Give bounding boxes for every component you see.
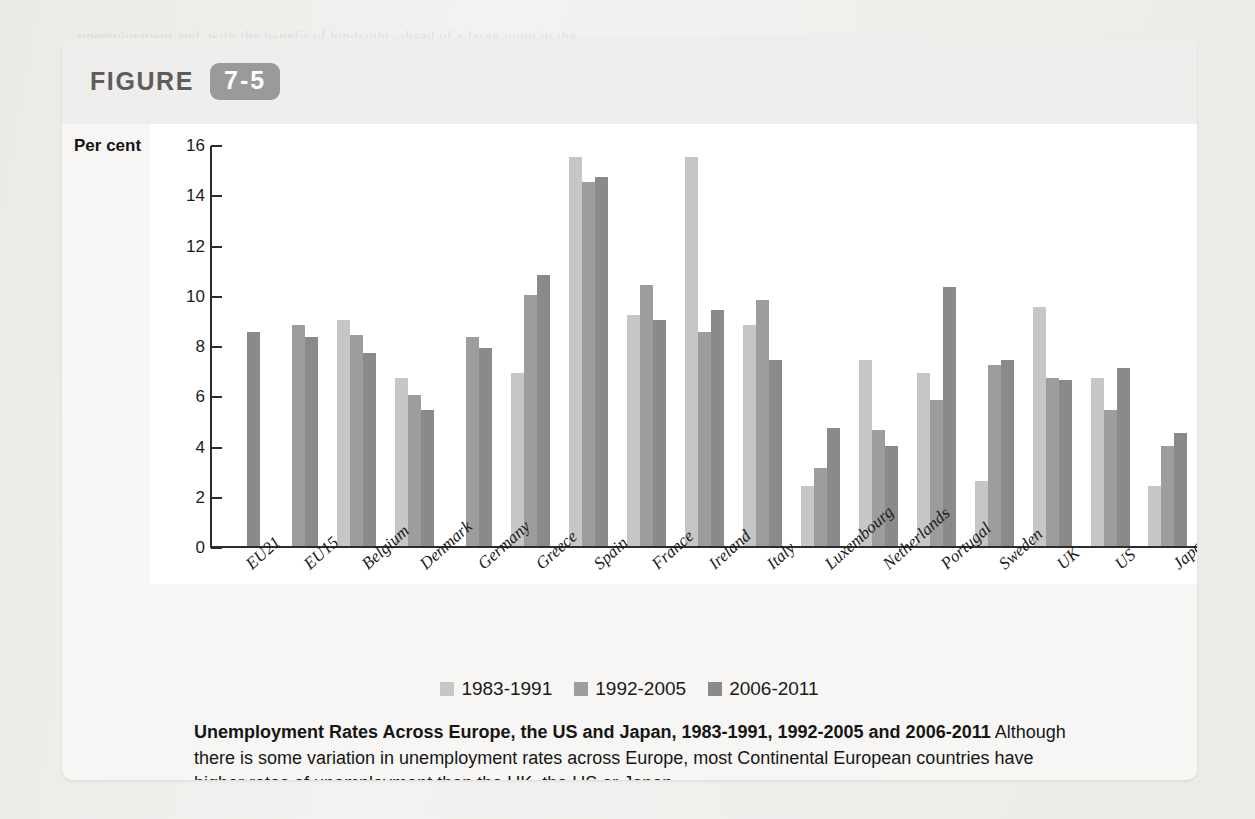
bar [337,320,350,546]
x-label-cell: Sweden [965,548,1023,588]
y-tick-label: 8 [196,337,205,357]
legend-item: 2006-2011 [708,678,818,700]
bar [885,446,898,547]
bar [769,360,782,546]
figure-card: FIGURE 7-5 Per cent 1614121086420 EU21EU… [62,38,1197,780]
legend-item: 1992-2005 [574,678,686,700]
x-label-cell: Luxembourg [791,548,849,588]
bar [698,332,711,546]
legend-item: 1983-1991 [440,678,552,700]
bar-group [618,146,676,546]
bar [466,337,479,546]
bar [421,410,434,546]
bar-group [907,146,965,546]
bar-group [733,146,791,546]
bar [988,365,1001,546]
x-axis-label: UK [1053,543,1084,574]
y-tick-label: 16 [186,136,205,156]
bar [1046,378,1059,546]
bar [1117,368,1130,546]
x-label-cell: US [1081,548,1139,588]
bar-group [328,146,386,546]
caption-title: Unemployment Rates Across Europe, the US… [194,722,991,742]
bar-group [560,146,618,546]
bar [537,275,550,546]
x-axis-labels: EU21EU15BelgiumDenmarkGermanyGreeceSpain… [212,548,1197,588]
bar [1001,360,1014,546]
bar-group [1139,146,1197,546]
bars-layer [212,146,1197,546]
bar [569,157,582,546]
bar [640,285,653,546]
y-tick-label: 14 [186,186,205,206]
x-label-cell: UK [1023,548,1081,588]
bar [395,378,408,546]
bar [582,182,595,546]
x-label-cell: EU21 [212,548,270,588]
bar-group [386,146,444,546]
x-label-cell: Italy [733,548,791,588]
y-tick-label: 0 [196,538,205,558]
y-tick-label: 4 [196,438,205,458]
x-label-cell: Japan [1139,548,1197,588]
bar-group [502,146,560,546]
legend-swatch [440,682,454,696]
bar-group [1023,146,1081,546]
bar [1174,433,1187,546]
x-label-cell: Germany [444,548,502,588]
y-tick-label: 6 [196,387,205,407]
bar [743,325,756,546]
bar [1091,378,1104,546]
figure-number-badge: 7-5 [210,63,280,100]
bar [350,335,363,546]
bar [756,300,769,546]
bar-group [676,146,734,546]
chart-area: Per cent 1614121086420 [210,146,1197,548]
bar [653,320,666,546]
legend-label: 1983-1991 [461,678,552,700]
x-label-cell: EU15 [270,548,328,588]
bar [247,332,260,546]
bar [827,428,840,546]
figure-header: FIGURE 7-5 [62,38,1197,124]
bar-group [791,146,849,546]
figure-label: FIGURE [90,67,194,96]
plot-panel: Per cent 1614121086420 EU21EU15BelgiumDe… [150,124,1197,584]
bar [305,337,318,546]
bar [711,310,724,546]
bar-group [1081,146,1139,546]
bar-group [849,146,907,546]
x-label-cell: Ireland [676,548,734,588]
bar-group [444,146,502,546]
y-tick-label: 10 [186,287,205,307]
x-label-cell: France [618,548,676,588]
bar-group [270,146,328,546]
bar [524,295,537,546]
bar [814,468,827,546]
figure-caption: Unemployment Rates Across Europe, the US… [194,720,1082,780]
bar [1033,307,1046,546]
bar [408,395,421,546]
x-label-cell: Spain [560,548,618,588]
bar [1104,410,1117,546]
bar [1161,446,1174,547]
bar-group [212,146,270,546]
bar [479,348,492,546]
bar [363,353,376,546]
x-label-cell: Belgium [328,548,386,588]
bar [685,157,698,546]
bar [292,325,305,546]
x-label-cell: Denmark [386,548,444,588]
bar [1059,380,1072,546]
legend-label: 1992-2005 [595,678,686,700]
y-tick-label: 12 [186,237,205,257]
bar [627,315,640,546]
bar [595,177,608,546]
legend-swatch [708,682,722,696]
bar [801,486,814,546]
chart-legend: 1983-19911992-20052006-2011 [62,678,1197,700]
y-tick-label: 2 [196,488,205,508]
legend-swatch [574,682,588,696]
bar-group [965,146,1023,546]
x-label-cell: Netherlands [849,548,907,588]
